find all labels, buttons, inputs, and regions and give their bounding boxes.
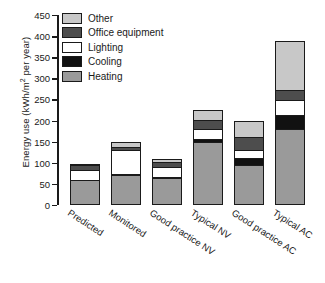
legend-swatch bbox=[62, 42, 82, 53]
legend-label: Heating bbox=[88, 71, 122, 82]
y-tick-label: 450 bbox=[20, 10, 50, 21]
bar-segment-heating bbox=[152, 178, 182, 205]
stacked-bar bbox=[152, 159, 182, 205]
x-tick-label: Predicted bbox=[66, 207, 106, 238]
y-tick-mark bbox=[52, 142, 57, 143]
y-tick-label: 100 bbox=[20, 157, 50, 168]
bar-segment-heating bbox=[70, 180, 100, 205]
legend-swatch bbox=[62, 13, 82, 24]
y-tick-mark bbox=[52, 78, 57, 79]
legend-label: Lighting bbox=[88, 42, 123, 53]
bar-segment-heating bbox=[275, 129, 305, 205]
bar-segment-heating bbox=[234, 165, 264, 205]
bar-segment-cooling bbox=[275, 115, 305, 130]
y-tick-label: 200 bbox=[20, 115, 50, 126]
stacked-bar bbox=[275, 41, 305, 205]
y-tick-mark bbox=[52, 36, 57, 37]
y-axis-line bbox=[57, 15, 59, 205]
y-tick-label: 350 bbox=[20, 52, 50, 63]
bar-segment-heating bbox=[193, 142, 223, 205]
y-tick-mark bbox=[52, 99, 57, 100]
legend-swatch bbox=[62, 56, 82, 67]
stacked-bar bbox=[234, 121, 264, 205]
legend-swatch bbox=[62, 27, 82, 38]
y-tick-mark bbox=[52, 121, 57, 122]
chart-legend: OtherOffice equipmentLightingCoolingHeat… bbox=[62, 12, 163, 82]
bar-segment-lighting bbox=[111, 150, 141, 175]
stacked-bar bbox=[70, 164, 100, 205]
y-tick-label: 150 bbox=[20, 136, 50, 147]
bar-segment-other bbox=[275, 41, 305, 92]
chart-figure: Energy use (kWh/m2 per year) 05010015020… bbox=[0, 0, 325, 283]
stacked-bar bbox=[111, 142, 141, 205]
x-tick-label: Monitored bbox=[107, 207, 148, 239]
bar-segment-lighting bbox=[275, 100, 305, 117]
y-tick-label: 300 bbox=[20, 73, 50, 84]
y-tick-mark bbox=[52, 15, 57, 16]
legend-item: Other bbox=[62, 12, 163, 24]
y-tick-mark bbox=[52, 184, 57, 185]
y-tick-mark bbox=[52, 163, 57, 164]
legend-label: Other bbox=[88, 13, 113, 24]
y-tick-label: 50 bbox=[20, 178, 50, 189]
y-tick-mark bbox=[52, 57, 57, 58]
bar-segment-other bbox=[234, 121, 264, 138]
legend-item: Office equipment bbox=[62, 27, 163, 39]
legend-item: Lighting bbox=[62, 41, 163, 53]
stacked-bar bbox=[193, 110, 223, 205]
legend-label: Cooling bbox=[88, 56, 122, 67]
y-tick-label: 400 bbox=[20, 31, 50, 42]
legend-label: Office equipment bbox=[88, 27, 163, 38]
y-tick-mark bbox=[52, 205, 57, 206]
y-tick-label: 250 bbox=[20, 94, 50, 105]
legend-swatch bbox=[62, 71, 82, 82]
bar-segment-heating bbox=[111, 175, 141, 205]
legend-item: Heating bbox=[62, 70, 163, 82]
bar-segment-office-equipment bbox=[234, 137, 264, 152]
legend-item: Cooling bbox=[62, 56, 163, 68]
y-tick-label: 0 bbox=[20, 200, 50, 211]
